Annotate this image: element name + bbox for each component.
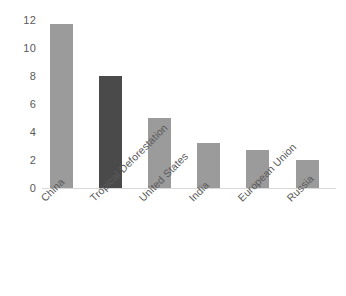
x-axis-category-labels: ChinaTropical DeforestationUnited States… xyxy=(0,190,346,296)
plot-area xyxy=(42,10,338,188)
bar[interactable] xyxy=(50,24,73,188)
y-tick-label: 6 xyxy=(14,99,36,110)
y-tick-label: 2 xyxy=(14,155,36,166)
bar-chart: 024681012 ChinaTropical DeforestationUni… xyxy=(0,0,346,296)
y-tick-label: 10 xyxy=(14,43,36,54)
y-tick-label: 4 xyxy=(14,127,36,138)
y-tick-label: 12 xyxy=(14,15,36,26)
y-tick-label: 8 xyxy=(14,71,36,82)
